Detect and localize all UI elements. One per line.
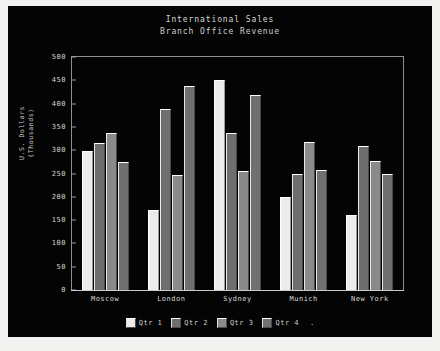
legend-swatch [171, 318, 181, 328]
x-axis-category-label: Moscow [77, 295, 133, 303]
legend-item[interactable]: Qtr 4 [262, 318, 299, 328]
bar [316, 170, 327, 290]
bar [106, 133, 117, 290]
y-axis-tick-label: 100 [52, 239, 71, 247]
y-axis-tick-label: 150 [52, 216, 71, 224]
bar [346, 215, 357, 290]
x-axis-category-label: Sydney [209, 295, 265, 303]
y-axis-tick-label: 300 [52, 146, 71, 154]
y-axis-tick-label: 500 [52, 53, 71, 61]
bar-group [280, 57, 327, 290]
y-axis-tick-label: 400 [52, 100, 71, 108]
bar [184, 86, 195, 290]
legend-label: Qtr 2 [184, 319, 208, 327]
bar [82, 151, 93, 290]
bar [250, 95, 261, 290]
bar [370, 161, 381, 290]
legend-item[interactable]: Qtr 1 [126, 318, 163, 328]
y-axis-tick-label: 200 [52, 193, 71, 201]
chart-canvas: International Sales Branch Office Revenu… [8, 6, 432, 337]
bar [214, 80, 225, 290]
y-axis-title: U.S. Dollars (Thousands) [18, 78, 36, 188]
screenshot-root: International Sales Branch Office Revenu… [0, 0, 440, 351]
x-axis-category-label: London [143, 295, 199, 303]
y-axis-tick-label: 450 [52, 76, 71, 84]
y-axis-tick-label: 350 [52, 123, 71, 131]
x-axis-category-label: Munich [276, 295, 332, 303]
bar [148, 210, 159, 290]
bar [280, 197, 291, 290]
bar [238, 171, 249, 290]
bar [226, 133, 237, 291]
legend-label: Qtr 1 [139, 319, 163, 327]
bar [292, 174, 303, 290]
legend-swatch [126, 318, 136, 328]
bar-group [346, 57, 393, 290]
bar [304, 142, 315, 290]
chart-subtitle: Branch Office Revenue [8, 26, 432, 38]
bar-group [214, 57, 261, 290]
x-axis-category-labels: MoscowLondonSydneyMunichNew York [72, 295, 403, 303]
y-axis-tick-label: 250 [52, 170, 71, 178]
legend-label: Qtr 4 [275, 319, 299, 327]
legend-item[interactable]: Qtr 3 [217, 318, 254, 328]
chart-title-block: International Sales Branch Office Revenu… [8, 14, 432, 38]
bar [160, 109, 171, 290]
y-axis-title-line1: U.S. Dollars [18, 78, 27, 188]
legend-swatch [262, 318, 272, 328]
y-axis-tick-label: 50 [57, 263, 71, 271]
legend-swatch [217, 318, 227, 328]
bar-group [82, 57, 129, 290]
chart-legend: Qtr 1Qtr 2Qtr 3Qtr 4. [8, 318, 432, 328]
y-axis-title-line2: (Thousands) [27, 78, 36, 188]
x-axis-category-label: New York [342, 295, 398, 303]
bar-group [148, 57, 195, 290]
legend-trailing-text: . [310, 319, 314, 327]
chart-title: International Sales [8, 14, 432, 26]
x-axis-line [71, 290, 404, 291]
legend-item[interactable]: Qtr 2 [171, 318, 208, 328]
bar [172, 175, 183, 290]
bar [382, 174, 393, 291]
bars-layer [72, 57, 403, 290]
legend-label: Qtr 3 [230, 319, 254, 327]
bar [358, 146, 369, 290]
bar [118, 162, 129, 290]
y-axis-tick-label: 0 [61, 286, 71, 294]
bar [94, 143, 105, 290]
